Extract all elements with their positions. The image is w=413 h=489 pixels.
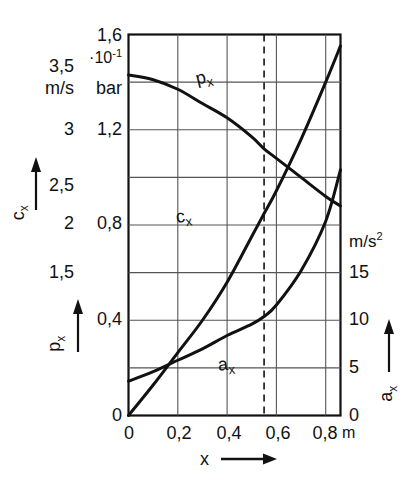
left-outer-axis-title: cx: [9, 205, 31, 220]
left-outer-tick-2: 3: [64, 120, 74, 138]
right-axis-unit: m/s2: [349, 231, 383, 250]
ax-subscript: x: [386, 386, 400, 392]
x-axis-unit: m: [342, 425, 355, 441]
left-inner-tick-2: 1,2: [97, 120, 122, 138]
x-axis-arrow-icon: [221, 454, 277, 465]
px-axis-arrow-icon: [73, 299, 83, 352]
right-unit-base: m/s: [349, 232, 376, 251]
left-inner-tick-3: 0,8: [97, 214, 122, 232]
right-tick-4: 0: [349, 406, 359, 424]
x-tick-1: 0,2: [166, 424, 191, 442]
x-tick-4: 0,8: [312, 424, 337, 442]
left-outer-tick-1: 3,5: [49, 57, 74, 75]
left-outer-unit: m/s: [45, 79, 74, 97]
ax-symbol: a: [376, 392, 396, 402]
right-unit-exponent: 2: [376, 230, 382, 242]
left-outer-tick-5: 1,5: [49, 263, 74, 281]
curve-label-cx-sub: x: [185, 214, 194, 230]
curve-label-ax-sub: x: [228, 362, 236, 378]
curve-cx: [129, 46, 341, 416]
exponent-base: ·10: [89, 49, 112, 66]
px-subscript: x: [54, 336, 68, 342]
left-inner-tick-5: 0: [112, 406, 122, 424]
curve-label-ax: ax: [217, 354, 236, 377]
left-inner-unit: bar: [96, 79, 122, 97]
x-tick-0: 0: [124, 424, 134, 442]
figure-canvas: 1,6 ·10-1 bar 1,2 0,8 0,4 0 px 3,5 m/s 3…: [0, 0, 413, 489]
right-tick-3: 5: [349, 358, 359, 376]
x-tick-3: 0,6: [265, 424, 290, 442]
right-axis-title: ax: [377, 386, 399, 402]
left-outer-tick-3: 2,5: [49, 176, 74, 194]
px-symbol: p: [44, 342, 64, 352]
cx-subscript: x: [17, 205, 31, 211]
curve-ax: [129, 170, 341, 381]
cx-axis-arrow-icon: [31, 157, 41, 210]
left-inner-tick-1: 1,6: [97, 26, 122, 44]
left-outer-tick-4: 2: [64, 214, 74, 232]
curve-label-cx: cx: [175, 206, 193, 230]
left-inner-tick-4: 0,4: [97, 310, 122, 328]
left-inner-exponent: ·10-1: [89, 48, 122, 66]
x-axis-title: x: [200, 450, 209, 468]
curve-px: [129, 75, 341, 206]
ax-axis-arrow-icon: [384, 319, 394, 372]
right-tick-2: 10: [349, 310, 369, 328]
left-inner-axis-title: px: [45, 336, 67, 352]
x-tick-2: 0,4: [216, 424, 241, 442]
exponent-power: -1: [112, 47, 122, 59]
cx-symbol: c: [8, 211, 28, 220]
right-tick-1: 15: [349, 263, 369, 281]
